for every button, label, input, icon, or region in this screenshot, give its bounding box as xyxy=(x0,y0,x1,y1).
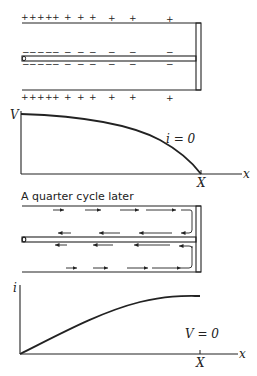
i-axis-label: i xyxy=(13,281,17,295)
svg-text:+: + xyxy=(29,12,37,22)
svg-text:+: + xyxy=(64,12,72,22)
voltage-zero-annotation: V = 0 xyxy=(185,327,219,341)
top-positive-signs: + + + + + + + + + + + xyxy=(21,12,174,24)
svg-text:+: + xyxy=(89,92,97,102)
svg-text:+: + xyxy=(166,93,174,103)
x-axis-label: x xyxy=(239,347,246,361)
svg-text:−: − xyxy=(52,59,60,69)
svg-text:+: + xyxy=(108,92,116,102)
voltage-graph: V x X i = 0 xyxy=(10,108,250,190)
svg-text:−: − xyxy=(166,59,174,69)
inner-bottom-current-arrows xyxy=(55,245,192,268)
inner-conductor-end xyxy=(22,237,26,242)
figure-canvas: + + + + + + + + + + + − − − − − − − − − … xyxy=(0,0,257,376)
x-axis-label: x xyxy=(243,167,250,181)
svg-text:+: + xyxy=(37,12,45,22)
svg-text:−: − xyxy=(29,59,37,69)
svg-text:−: − xyxy=(129,59,137,69)
shorting-end-plate xyxy=(196,206,201,272)
svg-text:+: + xyxy=(77,92,85,102)
current-zero-annotation: i = 0 xyxy=(166,132,196,146)
x-mark-label: X xyxy=(196,176,206,190)
svg-text:−: − xyxy=(64,59,72,69)
svg-text:+: + xyxy=(108,13,116,23)
outer-top-current-arrows xyxy=(53,210,192,233)
inner-conductor xyxy=(22,237,196,242)
x-mark-label: X xyxy=(195,356,205,370)
svg-text:+: + xyxy=(52,12,60,22)
current-flow-diagram: A quarter cycle later xyxy=(21,190,201,272)
svg-text:+: + xyxy=(129,13,137,23)
svg-text:−: − xyxy=(77,59,85,69)
svg-text:+: + xyxy=(89,12,97,22)
svg-text:+: + xyxy=(52,92,60,102)
bottom-positive-signs: + + + + + + + + + + + xyxy=(21,92,174,103)
charge-distribution-diagram: + + + + + + + + + + + − − − − − − − − − … xyxy=(21,12,201,103)
current-curve xyxy=(20,296,200,354)
svg-text:−: − xyxy=(108,59,116,69)
svg-text:+: + xyxy=(29,92,37,102)
current-graph: i x X V = 0 xyxy=(13,281,246,370)
svg-text:+: + xyxy=(37,92,45,102)
panel-caption: A quarter cycle later xyxy=(21,190,134,203)
svg-text:+: + xyxy=(21,12,29,22)
svg-text:−: − xyxy=(89,59,97,69)
svg-text:−: − xyxy=(37,59,45,69)
svg-text:+: + xyxy=(77,12,85,22)
svg-text:+: + xyxy=(129,92,137,102)
svg-text:+: + xyxy=(21,92,29,102)
svg-text:+: + xyxy=(64,92,72,102)
v-axis-label: V xyxy=(10,108,20,122)
shorting-end-plate xyxy=(196,23,201,90)
